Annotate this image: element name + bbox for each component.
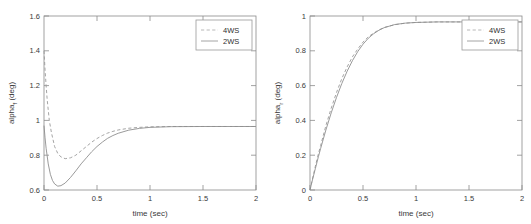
x-axis-label: time (sec)	[398, 209, 433, 218]
svg-text:alphar (deg): alphar (deg)	[273, 81, 284, 124]
y-tick-label: 1.6	[30, 12, 40, 21]
legend[interactable]: 4WS 2WS	[196, 20, 252, 50]
y-axis-label-base: alpha	[273, 104, 282, 124]
y-tick-label: 1	[36, 116, 40, 125]
figure-canvas: 0 0.5 1 1.5 2 0.6 0.8 1 1.2 1.4 1.6 time…	[0, 0, 531, 224]
front-slip-angle-plot: 0 0.5 1 1.5 2 0.6 0.8 1 1.2 1.4 1.6 time…	[0, 0, 265, 224]
x-axis-label: time (sec)	[132, 209, 167, 218]
y-tick-label: 0	[302, 186, 306, 195]
series-line-2ws	[44, 126, 256, 187]
legend-label-4ws: 4WS	[489, 26, 505, 35]
x-tick-label: 0	[308, 194, 312, 203]
rear-slip-angle-plot: 0 0.5 1 1.5 2 0 0.2 0.4 0.6 0.8 1 time (…	[266, 0, 531, 224]
y-tick-label: 1.2	[30, 81, 40, 90]
y-tick-label: 0.8	[30, 151, 40, 160]
x-tick-label: 2	[254, 194, 258, 203]
legend[interactable]: 4WS 2WS	[462, 20, 518, 50]
y-tick-label: 0.8	[296, 46, 306, 55]
x-tick-label: 0.5	[358, 194, 368, 203]
y-axis-label-base: alpha	[7, 104, 16, 124]
series-line-4ws	[44, 51, 256, 159]
x-tick-label: 1	[148, 194, 152, 203]
y-tick-label: 0.6	[30, 186, 40, 195]
x-tick-label: 0.5	[92, 194, 102, 203]
y-axis-label: alphaf (deg)	[7, 82, 18, 124]
chart-panel-front-slip-angle: 0 0.5 1 1.5 2 0.6 0.8 1 1.2 1.4 1.6 time…	[0, 0, 265, 224]
legend-label-2ws: 2WS	[489, 37, 505, 46]
x-tick-label: 2	[520, 194, 524, 203]
legend-label-2ws: 2WS	[223, 37, 239, 46]
x-tick-label: 1	[414, 194, 418, 203]
x-tick-label: 1.5	[464, 194, 474, 203]
y-tick-label: 0.6	[296, 81, 306, 90]
y-tick-label: 0.4	[296, 116, 306, 125]
y-tick-label: 1	[302, 12, 306, 21]
y-axis-label-units-text: (deg)	[273, 81, 282, 100]
y-tick-label: 0.2	[296, 151, 306, 160]
y-axis-label-units-text: (deg)	[7, 82, 16, 101]
y-axis-label: alphar (deg)	[273, 81, 284, 124]
x-tick-label: 0	[42, 194, 46, 203]
y-tick-label: 1.4	[30, 46, 40, 55]
legend-label-4ws: 4WS	[223, 26, 239, 35]
x-tick-label: 1.5	[198, 194, 208, 203]
svg-text:alphaf (deg): alphaf (deg)	[7, 82, 18, 124]
chart-panel-rear-slip-angle: 0 0.5 1 1.5 2 0 0.2 0.4 0.6 0.8 1 time (…	[266, 0, 531, 224]
